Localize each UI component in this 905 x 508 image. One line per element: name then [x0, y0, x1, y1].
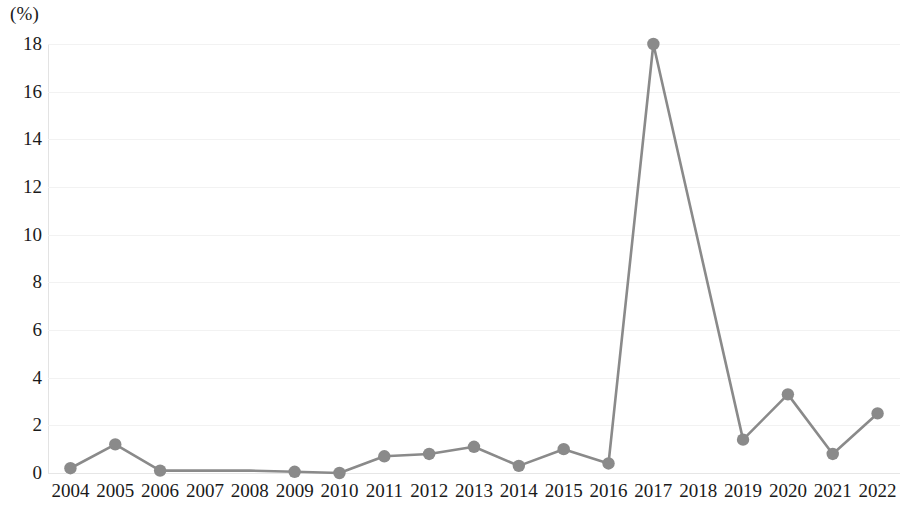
data-point-marker — [647, 38, 659, 50]
data-point-marker — [557, 443, 569, 455]
line-chart: (%) 024681012141618 20042005200620072008… — [0, 0, 905, 508]
y-tick-label: 4 — [2, 368, 42, 388]
series-line — [70, 44, 877, 473]
x-tick-label: 2017 — [634, 478, 672, 504]
data-point-marker — [378, 450, 390, 462]
data-point-marker — [154, 464, 166, 476]
x-tick-label: 2004 — [51, 478, 89, 504]
x-tick-label: 2016 — [590, 478, 628, 504]
data-point-marker — [782, 388, 794, 400]
x-tick-label: 2015 — [545, 478, 583, 504]
x-tick-label: 2005 — [96, 478, 134, 504]
data-point-marker — [513, 460, 525, 472]
y-tick-label: 10 — [2, 225, 42, 245]
y-tick-label: 2 — [2, 415, 42, 435]
x-tick-label: 2014 — [500, 478, 538, 504]
data-series-layer — [48, 44, 900, 473]
y-tick-label: 8 — [2, 272, 42, 292]
x-tick-label: 2011 — [366, 478, 403, 504]
data-point-marker — [109, 438, 121, 450]
data-point-marker — [871, 407, 883, 419]
data-point-marker — [423, 448, 435, 460]
x-tick-label: 2021 — [814, 478, 852, 504]
x-tick-label: 2006 — [141, 478, 179, 504]
y-tick-label: 14 — [2, 129, 42, 149]
x-tick-label: 2020 — [769, 478, 807, 504]
x-axis-tick-labels: 2004200520062007200820092010201120122013… — [48, 478, 900, 508]
y-tick-label: 0 — [2, 463, 42, 483]
y-tick-label: 16 — [2, 82, 42, 102]
y-axis-unit-label: (%) — [10, 4, 39, 24]
data-point-marker — [288, 466, 300, 478]
y-axis-tick-labels: 024681012141618 — [0, 44, 42, 473]
plot-area — [48, 44, 900, 473]
x-tick-label: 2022 — [859, 478, 897, 504]
data-point-marker — [64, 462, 76, 474]
x-tick-label: 2018 — [679, 478, 717, 504]
gridline-0 — [48, 473, 900, 474]
x-tick-label: 2009 — [276, 478, 314, 504]
x-tick-label: 2007 — [186, 478, 224, 504]
x-tick-label: 2008 — [231, 478, 269, 504]
x-tick-label: 2019 — [724, 478, 762, 504]
y-tick-label: 12 — [2, 177, 42, 197]
x-tick-label: 2010 — [320, 478, 358, 504]
data-point-marker — [602, 457, 614, 469]
x-tick-label: 2012 — [410, 478, 448, 504]
x-tick-label: 2013 — [455, 478, 493, 504]
data-point-marker — [827, 448, 839, 460]
y-tick-label: 18 — [2, 34, 42, 54]
y-tick-label: 6 — [2, 320, 42, 340]
data-point-marker — [737, 433, 749, 445]
data-point-marker — [468, 441, 480, 453]
